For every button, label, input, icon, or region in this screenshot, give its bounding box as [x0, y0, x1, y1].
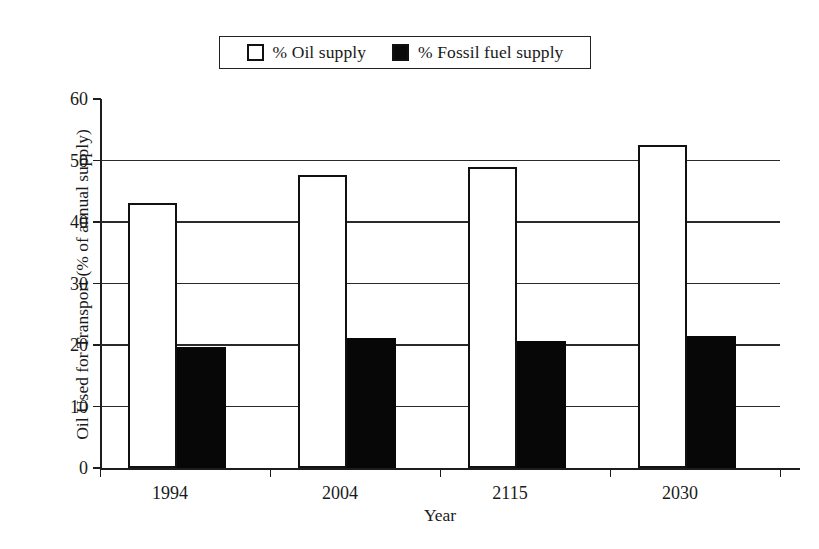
y-tick-mark [93, 406, 101, 408]
legend-swatch-hollow-square-icon [247, 44, 264, 61]
x-tick-mark [270, 468, 271, 477]
bar-chart-figure: % Oil supply % Fossil fuel supply Oil Us… [0, 0, 819, 549]
x-tick-label-2004: 2004 [322, 483, 358, 504]
legend-entry-oil-supply: % Oil supply [247, 44, 367, 62]
y-tick-mark [93, 221, 101, 223]
y-tick-mark [93, 98, 101, 100]
y-tick-mark [93, 160, 101, 162]
x-tick-label-2030: 2030 [662, 483, 698, 504]
legend-swatch-filled-square-icon [392, 44, 409, 61]
x-tick-label-2115: 2115 [492, 483, 527, 504]
x-axis-line [100, 468, 800, 470]
bar-fossil-fuel-supply-2115 [517, 341, 566, 468]
y-tick-label: 50 [70, 150, 88, 171]
legend-label-oil-supply: % Oil supply [273, 44, 367, 62]
y-tick-label: 10 [70, 396, 88, 417]
y-tick-label: 60 [70, 89, 88, 110]
bar-oil-supply-2115 [468, 167, 517, 468]
x-tick-mark [440, 468, 441, 477]
x-tick-mark [780, 468, 781, 477]
bar-fossil-fuel-supply-2004 [347, 338, 396, 468]
bar-oil-supply-2030 [638, 145, 687, 468]
bar-fossil-fuel-supply-2030 [687, 336, 736, 468]
y-tick-label: 30 [70, 273, 88, 294]
y-tick-label: 40 [70, 212, 88, 233]
plot-area: 0102030405060 1994200421152030 [100, 99, 780, 468]
legend-label-fossil-fuel-supply: % Fossil fuel supply [418, 44, 563, 62]
x-axis-title: Year [100, 505, 780, 526]
chart-legend: % Oil supply % Fossil fuel supply [219, 36, 591, 69]
y-tick-label: 0 [79, 458, 88, 479]
y-tick-mark [93, 344, 101, 346]
x-tick-mark [610, 468, 611, 477]
legend-entry-fossil-fuel-supply: % Fossil fuel supply [392, 44, 563, 62]
bar-oil-supply-1994 [128, 203, 177, 468]
bar-fossil-fuel-supply-1994 [177, 347, 226, 468]
y-tick-mark [93, 283, 101, 285]
x-tick-label-1994: 1994 [152, 483, 188, 504]
bar-oil-supply-2004 [298, 175, 347, 468]
y-tick-label: 20 [70, 335, 88, 356]
x-tick-mark [100, 468, 101, 477]
